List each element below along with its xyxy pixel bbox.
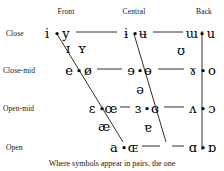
vowel-symbol-a: a [110,141,118,154]
pair-dot-close-front: • [54,29,61,40]
chart-caption: Where symbols appear in pairs, the one [0,159,224,168]
vowel-symbol-rams-horn: ɤ [189,64,196,77]
vowel-symbol-barred-o: ɵ [144,64,152,77]
column-header-central: Central [123,7,146,16]
vowel-symbol-turned-m: ɯ [186,27,198,40]
vowel-symbol-epsilon: ɛ [89,102,96,115]
vowel-symbol-oe-ligature: œ [105,102,118,115]
vowel-symbol-u-bar: ʉ [139,27,147,40]
vowel-symbol-i: i [45,27,49,40]
vowel-symbol-y: y [62,27,69,40]
pair-dot-close-mid-central: • [137,66,144,77]
vowel-symbol-u: u [207,27,215,40]
row-label-close: Close [6,29,24,38]
vowel-symbol-open-o: ɔ [208,102,215,115]
vowel-symbol-i-bar: ɨ [124,27,128,40]
row-label-close-mid: Close-mid [3,66,35,75]
column-header-back: Back [196,7,212,16]
vowel-symbol-upsilon: ʊ [177,44,185,57]
pair-dot-open-mid-central: • [144,104,151,115]
pair-dot-close-central: • [132,29,139,40]
vowel-symbol-turned-a: ɐ [144,121,152,134]
pair-dot-open-mid-back: • [200,104,207,115]
pair-dot-close-mid-back: • [200,66,207,77]
vowel-symbol-small-cap-i: ɪ [66,42,70,55]
vowel-symbol-o-slash: ø [84,64,92,77]
column-header-front: Front [58,7,75,16]
vowel-symbol-schwa: ə [136,83,144,96]
vowel-symbol-turned-v: ʌ [189,102,196,115]
vowel-symbol-reversed-epsilon: ɜ [135,102,142,115]
row-label-open-mid: Open-mid [3,104,34,113]
pair-dot-close-mid-front: • [76,66,83,77]
vowel-symbol-closed-reversed-epsilon: ɞ [151,102,159,115]
vowel-symbol-e: e [65,64,73,77]
vowel-symbol-small-cap-y: ʏ [78,42,87,55]
pair-dot-open-back: • [200,143,207,154]
vowel-symbol-script-a: ɑ [189,141,197,154]
vowel-symbol-turned-script-a: ɒ [208,141,216,154]
vowel-symbol-reversed-e: ɘ [127,64,135,77]
vowel-symbol-ae-ligature: æ [98,120,110,133]
row-label-open: Open [6,143,23,152]
vowel-symbol-o: o [208,64,216,77]
vowel-symbol-small-cap-oe: ɶ [128,141,138,154]
ipa-vowel-chart: Front Central Back Close Close-mid Open-… [0,0,224,171]
pair-dot-close-back: • [199,29,206,40]
pair-dot-open-front: • [121,143,128,154]
